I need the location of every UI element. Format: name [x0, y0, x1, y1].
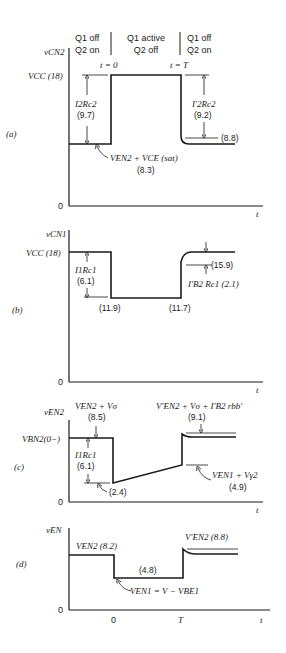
- svg-text:(8.5): (8.5): [88, 412, 106, 422]
- svg-text:(c): (c): [14, 462, 24, 472]
- svg-text:Q2 on: Q2 on: [187, 45, 212, 55]
- x-tick-t: t: [260, 615, 263, 625]
- svg-text:VBN2(0−): VBN2(0−): [22, 434, 60, 444]
- svg-text:VCC (18): VCC (18): [26, 248, 61, 258]
- svg-text:0: 0: [58, 497, 63, 507]
- svg-text:t: t: [256, 385, 259, 395]
- svg-text:Q1 off: Q1 off: [187, 33, 212, 43]
- svg-text:(6.1): (6.1): [77, 461, 95, 471]
- svg-text:I1Rc1: I1Rc1: [74, 450, 97, 460]
- svg-text:T: T: [178, 615, 184, 625]
- waveform-diagram: Q1 off Q2 on Q1 active Q2 off Q1 off Q2 …: [0, 0, 286, 653]
- svg-text:(4.9): (4.9): [229, 482, 247, 492]
- svg-text:0: 0: [58, 605, 63, 615]
- svg-text:t: t: [256, 209, 259, 219]
- t0-label: t = 0: [100, 60, 118, 70]
- svg-text:0: 0: [58, 201, 63, 211]
- svg-text:(2.4): (2.4): [109, 487, 127, 497]
- ylabel-b: vCN1: [46, 229, 67, 239]
- svg-text:I'2Rc2: I'2Rc2: [191, 99, 216, 109]
- svg-text:VEN2 + Vσ: VEN2 + Vσ: [75, 401, 118, 411]
- x-tick-T: T: [178, 615, 184, 625]
- svg-text:Q2 off: Q2 off: [134, 45, 159, 55]
- svg-text:(9.2): (9.2): [194, 110, 212, 120]
- svg-text:t = T: t = T: [170, 60, 189, 70]
- state-mid-q1: Q1 active: [127, 33, 165, 43]
- svg-text:(11.9): (11.9): [99, 303, 121, 313]
- svg-text:VEN2 + VCE (sat): VEN2 + VCE (sat): [110, 153, 178, 163]
- svg-text:(4.8): (4.8): [139, 565, 157, 575]
- svg-text:vCN1: vCN1: [46, 229, 67, 239]
- svg-text:VEN1 = V − VBE1: VEN1 = V − VBE1: [130, 586, 199, 596]
- svg-text:VEN1 + Vγ2: VEN1 + Vγ2: [212, 470, 258, 480]
- state-right-q2: Q2 on: [187, 45, 212, 55]
- svg-text:(11.7): (11.7): [169, 303, 191, 313]
- svg-text:(a): (a): [6, 129, 17, 139]
- svg-text:(8.3): (8.3): [137, 165, 155, 175]
- state-mid-q2: Q2 off: [134, 45, 159, 55]
- panel-a: (a) vCN2 VCC (18) 0 t I2Rc2 (9.7) I'2Rc2…: [6, 47, 263, 219]
- svg-text:(b): (b): [12, 305, 23, 315]
- svg-text:Q2 on: Q2 on: [75, 45, 100, 55]
- start-c: VBN2(0−): [22, 434, 60, 444]
- panel-c: (c) vEN2 VBN2(0−) 0 t VEN2 + Vσ (8.5) V'…: [14, 401, 263, 515]
- state-left-q2: Q2 on: [75, 45, 100, 55]
- svg-text:t: t: [260, 615, 263, 625]
- svg-text:vEN: vEN: [46, 525, 62, 535]
- svg-text:vCN2: vCN2: [44, 47, 65, 57]
- svg-text:Q1 off: Q1 off: [75, 33, 100, 43]
- svg-text:(d): (d): [16, 559, 27, 569]
- svg-text:0: 0: [58, 377, 63, 387]
- state-right-q1: Q1 off: [187, 33, 212, 43]
- svg-text:V'EN2 + Vσ + I'B2 rbb': V'EN2 + Vσ + I'B2 rbb': [156, 401, 243, 411]
- svg-text:(9.1): (9.1): [188, 412, 206, 422]
- svg-text:(8.8): (8.8): [221, 133, 239, 143]
- vcc-b: VCC (18): [26, 248, 61, 258]
- svg-text:VEN2 (8.2): VEN2 (8.2): [76, 541, 117, 551]
- svg-text:(6.1): (6.1): [77, 276, 95, 286]
- svg-text:Q1 active: Q1 active: [127, 33, 165, 43]
- svg-text:I'B2 Rc1 (2.1): I'B2 Rc1 (2.1): [187, 279, 239, 289]
- svg-text:t: t: [256, 505, 259, 515]
- svg-text:I2Rc2: I2Rc2: [74, 99, 97, 109]
- svg-text:(15.9): (15.9): [211, 260, 233, 270]
- x-tick-0: 0: [111, 615, 116, 625]
- panel-d: (d) vEN 0 VEN2 (8.2) V'EN2 (8.8) (4.8) V…: [16, 525, 270, 625]
- state-header: Q1 off Q2 on Q1 active Q2 off Q1 off Q2 …: [75, 32, 212, 70]
- svg-text:t = 0: t = 0: [100, 60, 118, 70]
- state-left-q1: Q1 off: [75, 33, 100, 43]
- vcc-a: VCC (18): [28, 71, 63, 81]
- svg-text:(9.7): (9.7): [77, 110, 95, 120]
- svg-text:VCC (18): VCC (18): [28, 71, 63, 81]
- svg-text:I1Rc1: I1Rc1: [74, 265, 97, 275]
- panel-b: (b) vCN1 VCC (18) 0 t I1Rc1 (6.1) (11.9)…: [12, 229, 263, 395]
- ylabel-a: vCN2: [44, 47, 65, 57]
- svg-text:V'EN2 (8.8): V'EN2 (8.8): [185, 532, 228, 542]
- tT-label: t = T: [170, 60, 189, 70]
- ylabel-d: vEN: [46, 525, 62, 535]
- svg-text:0: 0: [111, 615, 116, 625]
- ylabel-c: vEN2: [44, 407, 64, 417]
- svg-text:vEN2: vEN2: [44, 407, 64, 417]
